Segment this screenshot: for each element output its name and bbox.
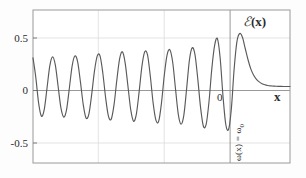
frequency-annotation-text: ω(x) = ω (233, 127, 243, 161)
frequency-annotation: ω(x) = ω0 (234, 124, 246, 161)
y-tick-label-zero: 0 (2, 85, 28, 96)
plot-background (33, 10, 290, 163)
curve-label-symbol: ℰ (243, 14, 251, 29)
y-tick-label-lower: -0.5 (0, 138, 28, 149)
y-tick-label-upper: 0.5 (2, 33, 28, 44)
x-axis-label: x (274, 90, 281, 103)
curve-label: ℰ(x) (243, 15, 266, 28)
curve-label-argument: (x) (251, 14, 266, 29)
x-tick-label-zero: 0 (217, 92, 223, 103)
figure-canvas: 0.5 0 -0.5 0 x ℰ(x) ω(x) = ω0 (0, 0, 306, 178)
frequency-annotation-subscript: 0 (238, 124, 246, 128)
